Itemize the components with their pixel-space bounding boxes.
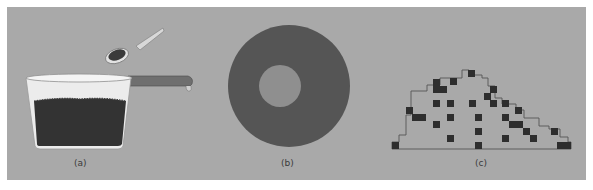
pile-square (509, 121, 523, 128)
pile-square (490, 86, 497, 93)
pile-square (475, 128, 482, 135)
pile-square (406, 107, 413, 114)
pile-square (469, 100, 476, 107)
pile-square (502, 100, 509, 107)
pile-square (557, 142, 571, 149)
pile-square (484, 93, 491, 100)
pile-outline (392, 70, 571, 149)
pile-square (551, 128, 558, 135)
panel-c: (c) (0, 0, 593, 190)
pile-square (475, 142, 482, 149)
pile-squares (392, 70, 571, 149)
pile-square (412, 114, 426, 121)
caption-c: (c) (475, 158, 487, 168)
staircase-pile-illustration (0, 0, 593, 190)
pile-square (447, 135, 454, 142)
pile-square (433, 121, 440, 128)
pile-square (502, 135, 509, 142)
pile-square (450, 78, 457, 85)
pile-square (447, 100, 454, 107)
pile-square (530, 135, 537, 142)
pile-square (447, 114, 454, 121)
pile-square (490, 100, 497, 107)
pile-square (433, 86, 447, 93)
pile-square (502, 114, 509, 121)
pile-square (433, 100, 440, 107)
pile-square (392, 142, 399, 149)
pile-square (468, 70, 475, 77)
pile-square (475, 114, 482, 121)
pile-square (523, 128, 530, 135)
pile-square (515, 107, 522, 114)
